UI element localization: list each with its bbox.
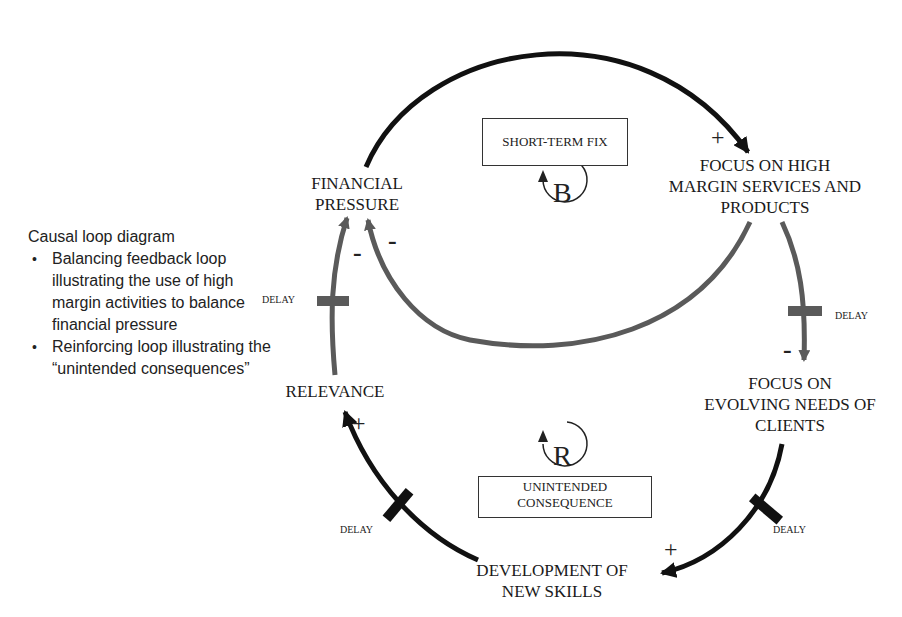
node-line: PRODUCTS: [655, 197, 875, 218]
sign-relevance-to-fp: -: [353, 238, 362, 268]
loop-r-symbol: R: [553, 440, 572, 472]
loop-r-label-line: UNINTENDED: [479, 479, 651, 495]
causal-links: [0, 0, 902, 617]
node-line: FOCUS ON HIGH: [655, 155, 875, 176]
node-line: FINANCIAL: [302, 173, 412, 194]
node-line: FOCUS ON: [690, 373, 890, 394]
node-line: NEW SKILLS: [472, 581, 632, 602]
node-development: DEVELOPMENT OF NEW SKILLS: [472, 560, 632, 602]
delay-label-bottom-left: DELAY: [340, 524, 373, 535]
loop-b-label: SHORT-TERM FIX: [502, 134, 607, 149]
node-focus-evolving: FOCUS ON EVOLVING NEEDS OF CLIENTS: [690, 373, 890, 436]
delay-label-left: DELAY: [262, 294, 295, 305]
loop-b-label-box: SHORT-TERM FIX: [482, 118, 628, 166]
node-focus-high-margin: FOCUS ON HIGH MARGIN SERVICES AND PRODUC…: [655, 155, 875, 218]
node-line: MARGIN SERVICES AND: [655, 176, 875, 197]
delay-label-right-top: DELAY: [835, 310, 868, 321]
sign-high-margin-to-evolving: -: [783, 335, 792, 365]
delay-mark-left: [317, 296, 349, 306]
delay-label-right-bottom: DEALY: [773, 524, 806, 535]
node-line: PRESSURE: [302, 194, 412, 215]
node-line: CLIENTS: [690, 415, 890, 436]
node-relevance: RELEVANCE: [280, 381, 390, 402]
node-financial-pressure: FINANCIAL PRESSURE: [302, 173, 412, 215]
delay-mark-right-top: [788, 306, 822, 316]
node-line: EVOLVING NEEDS OF: [690, 394, 890, 415]
loop-r-label-box: UNINTENDED CONSEQUENCE: [478, 476, 652, 518]
node-line: DEVELOPMENT OF: [472, 560, 632, 581]
loop-r-label-line: CONSEQUENCE: [479, 495, 651, 511]
sign-development-to-relevance: +: [352, 410, 366, 437]
loop-b-symbol: B: [553, 177, 572, 209]
sign-evolving-to-development: +: [664, 536, 678, 563]
sign-fp-to-high-margin: +: [711, 124, 725, 151]
sign-high-margin-to-fp: -: [388, 226, 397, 256]
delay-mark-bottom-left: [383, 488, 414, 522]
node-line: RELEVANCE: [280, 381, 390, 402]
link-high-margin-to-fp: [368, 220, 750, 346]
